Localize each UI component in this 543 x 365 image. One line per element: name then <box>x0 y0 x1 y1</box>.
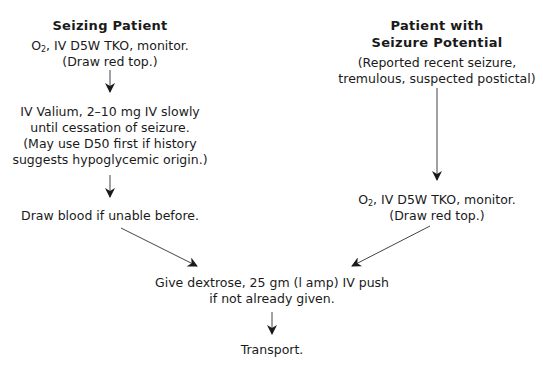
title-line1: Patient with <box>327 17 543 34</box>
left-step2-line1: IV Valium, 2–10 mg IV slowly <box>0 104 220 120</box>
left-step2-line4: suggests hypoglycemic origin.) <box>0 152 220 168</box>
arrow-left-merge <box>121 228 197 266</box>
left-step3: Draw blood if unable before. <box>0 208 220 224</box>
right-description-line1: (Reported recent seizure, <box>327 55 543 71</box>
right-description-line2: tremulous, suspected postictal) <box>327 71 543 87</box>
transport-label: Transport. <box>122 342 422 358</box>
title-line2: Seizure Potential <box>327 34 543 51</box>
merge-step1-line1: Give dextrose, 25 gm (l amp) IV push <box>122 275 422 291</box>
arrow-right-merge <box>352 226 430 266</box>
left-step1: O2, IV D5W TKO, monitor. (Draw red top.) <box>0 38 220 70</box>
right-description: (Reported recent seizure, tremulous, sus… <box>327 55 543 87</box>
title-text: Seizing Patient <box>52 18 167 33</box>
merge-step2: Transport. <box>122 342 422 358</box>
right-step1-line1: O2, IV D5W TKO, monitor. <box>327 192 543 208</box>
merge-step1: Give dextrose, 25 gm (l amp) IV push if … <box>122 275 422 307</box>
right-step1: O2, IV D5W TKO, monitor. (Draw red top.) <box>327 192 543 224</box>
seizing-patient-title: Seizing Patient <box>0 17 220 34</box>
left-step2-line3: (May use D50 first if history <box>0 136 220 152</box>
merge-step1-line2: if not already given. <box>122 291 422 307</box>
left-step3-line1: Draw blood if unable before. <box>0 208 220 224</box>
left-step1-line1: O2, IV D5W TKO, monitor. <box>0 38 220 54</box>
left-step1-line2: (Draw red top.) <box>0 54 220 70</box>
left-step2-line2: until cessation of seizure. <box>0 120 220 136</box>
right-step1-line2: (Draw red top.) <box>327 208 543 224</box>
left-step2: IV Valium, 2–10 mg IV slowly until cessa… <box>0 104 220 168</box>
seizure-potential-title: Patient with Seizure Potential <box>327 17 543 51</box>
